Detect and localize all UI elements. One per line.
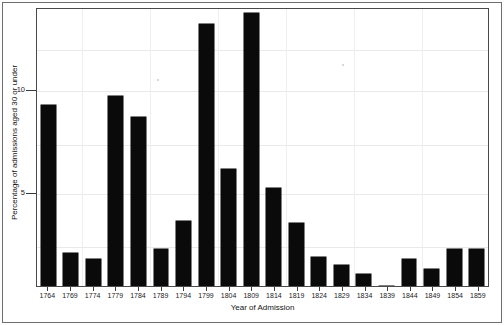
- x-tick-label-1794: 1794: [172, 292, 195, 299]
- bar-1804: [221, 169, 236, 286]
- x-tick-label-1799: 1799: [195, 292, 218, 299]
- x-tick-label-1834: 1834: [353, 292, 376, 299]
- x-tick-label-1854: 1854: [444, 292, 467, 299]
- x-tick-cell: [36, 287, 59, 291]
- bar-slot: [150, 9, 173, 286]
- bar-slot: [353, 9, 376, 286]
- bar-1784: [131, 117, 146, 286]
- x-tick-mark-1859: [478, 287, 479, 291]
- bar-1789: [154, 249, 169, 286]
- x-tick-mark-1839: [387, 287, 388, 291]
- bar-slot: [420, 9, 443, 286]
- bar-slot: [217, 9, 240, 286]
- x-tick-label-1859: 1859: [466, 292, 489, 299]
- x-tick-cell: [263, 287, 286, 291]
- x-tick-mark-1844: [410, 287, 411, 291]
- x-tick-label-1839: 1839: [376, 292, 399, 299]
- x-tick-mark-1784: [138, 287, 139, 291]
- bar-1824: [311, 257, 326, 286]
- x-tick-label-1814: 1814: [263, 292, 286, 299]
- bar-1819: [289, 223, 304, 286]
- x-tick-mark-1809: [251, 287, 252, 291]
- bar-slot: [240, 9, 263, 286]
- x-tick-cell: [240, 287, 263, 291]
- x-axis-title: Year of Admission: [36, 303, 489, 312]
- x-tick-cell: [466, 287, 489, 291]
- x-tick-mark-1814: [274, 287, 275, 291]
- x-tick-cell: [308, 287, 331, 291]
- bar-1799: [199, 24, 214, 286]
- x-tick-cell: [149, 287, 172, 291]
- x-tick-label-1849: 1849: [421, 292, 444, 299]
- x-tick-label-1844: 1844: [399, 292, 422, 299]
- x-tick-label-1809: 1809: [240, 292, 263, 299]
- bar-1779: [108, 96, 123, 286]
- x-tick-cell: [285, 287, 308, 291]
- x-tick-mark-1824: [319, 287, 320, 291]
- bar-1794: [176, 221, 191, 286]
- x-tick-mark-1854: [455, 287, 456, 291]
- x-tick-label-1819: 1819: [285, 292, 308, 299]
- x-tick-mark-1764: [47, 287, 48, 291]
- x-tick-mark-1799: [206, 287, 207, 291]
- bar-1774: [86, 259, 101, 286]
- x-tick-cell: [421, 287, 444, 291]
- x-tick-label-1769: 1769: [59, 292, 82, 299]
- x-tick-label-1784: 1784: [127, 292, 150, 299]
- plot-area: [36, 8, 489, 287]
- bar-1809: [244, 13, 259, 286]
- bar-1829: [334, 265, 349, 286]
- x-tick-label-1779: 1779: [104, 292, 127, 299]
- x-tick-cell: [444, 287, 467, 291]
- x-axis: 1764176917741779178417891794179918041809…: [36, 287, 489, 317]
- x-tick-mark-1829: [342, 287, 343, 291]
- x-tick-mark-1774: [93, 287, 94, 291]
- x-tick-cell: [331, 287, 354, 291]
- bar-slot: [443, 9, 466, 286]
- bar-slot: [172, 9, 195, 286]
- bar-slot: [308, 9, 331, 286]
- x-tick-mark-1779: [115, 287, 116, 291]
- bar-slot: [82, 9, 105, 286]
- x-tick-cell: [399, 287, 422, 291]
- bar-slot: [105, 9, 128, 286]
- x-tick-label-1764: 1764: [36, 292, 59, 299]
- bar-slot: [330, 9, 353, 286]
- x-tick-cell: [376, 287, 399, 291]
- bar-slot: [60, 9, 83, 286]
- bar-slot: [465, 9, 488, 286]
- x-tick-mark-1789: [161, 287, 162, 291]
- bar-1859: [469, 249, 484, 286]
- x-tick-cell: [217, 287, 240, 291]
- bar-slot: [262, 9, 285, 286]
- x-tick-cell: [127, 287, 150, 291]
- bar-slot: [285, 9, 308, 286]
- bar-slot: [398, 9, 421, 286]
- bar-slot: [127, 9, 150, 286]
- x-tick-label-1824: 1824: [308, 292, 331, 299]
- x-tick-cell: [353, 287, 376, 291]
- bar-1849: [424, 269, 439, 286]
- bar-slot: [37, 9, 60, 286]
- bar-1764: [41, 105, 56, 286]
- x-tick-cell: [172, 287, 195, 291]
- bar-1769: [63, 253, 78, 286]
- bar-slot: [375, 9, 398, 286]
- x-tick-mark-1834: [365, 287, 366, 291]
- x-tick-mark-1819: [297, 287, 298, 291]
- x-tick-mark-1804: [229, 287, 230, 291]
- bar-1844: [402, 259, 417, 286]
- x-tick-label-1789: 1789: [149, 292, 172, 299]
- x-tick-label-1804: 1804: [217, 292, 240, 299]
- bar-1814: [266, 188, 281, 286]
- x-tick-label-1829: 1829: [331, 292, 354, 299]
- x-tick-cell: [81, 287, 104, 291]
- bar-series: [37, 9, 488, 286]
- x-tick-mark-1794: [183, 287, 184, 291]
- figure-container: Percentage of admissions aged 30 or unde…: [0, 0, 504, 325]
- x-tick-mark-1769: [70, 287, 71, 291]
- y-tick-label-5: 5: [21, 189, 25, 197]
- x-tick-mark-1849: [432, 287, 433, 291]
- bar-1854: [447, 249, 462, 286]
- bar-1834: [356, 274, 371, 286]
